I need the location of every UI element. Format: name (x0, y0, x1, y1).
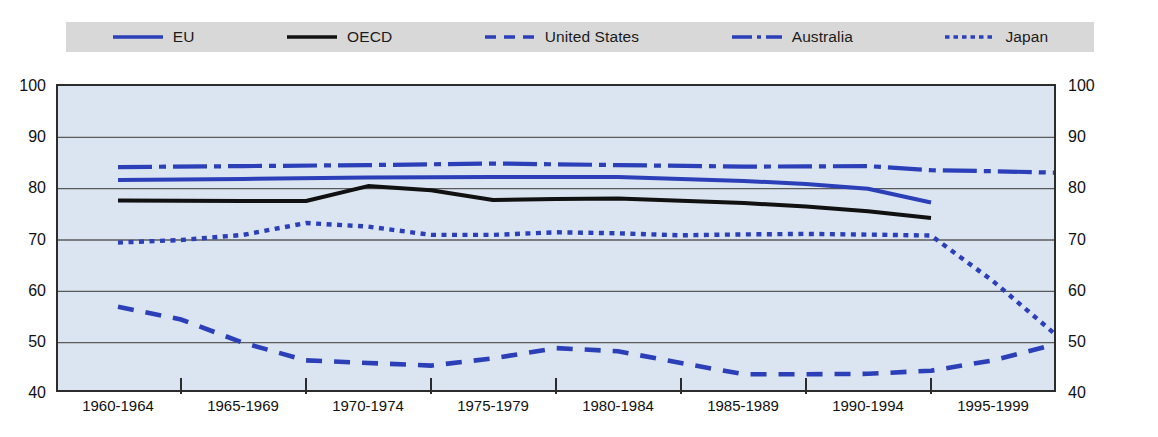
plot-area (56, 84, 1056, 392)
x-axis-label-1980-1984: 1980-1984 (582, 398, 654, 413)
legend-label-united-states: United States (545, 28, 639, 46)
y-axis-label-right-100: 100 (1068, 78, 1114, 94)
y-axis-label-right-90: 90 (1068, 129, 1114, 145)
plot-right-rule (1054, 84, 1056, 392)
y-axis-label-right-60: 60 (1068, 283, 1114, 299)
x-axis-label-1990-1994: 1990-1994 (832, 398, 904, 413)
y-axis-label-left-50: 50 (0, 334, 46, 350)
y-axis-label-left-60: 60 (0, 283, 46, 299)
legend-line-japan (944, 30, 996, 44)
chart-legend: EU OECD United States Australia Japan (66, 22, 1094, 52)
legend-item-australia[interactable]: Australia (731, 22, 853, 52)
y-axis-label-left-70: 70 (0, 232, 46, 248)
x-axis-ticks (181, 378, 931, 394)
x-axis-label-1985-1989: 1985-1989 (707, 398, 779, 413)
legend-label-australia: Australia (792, 28, 853, 46)
legend-line-united-states (484, 30, 536, 44)
y-axis-label-left-40: 40 (0, 385, 46, 401)
legend-label-japan: Japan (1005, 28, 1048, 46)
y-axis-label-left-80: 80 (0, 180, 46, 196)
legend-line-australia (731, 30, 783, 44)
y-axis-label-left-90: 90 (0, 129, 46, 145)
series-line-australia (118, 164, 1056, 173)
plot-svg (56, 86, 1056, 394)
x-axis-label-1995-1999: 1995-1999 (957, 398, 1029, 413)
legend-label-oecd: OECD (347, 28, 392, 46)
legend-line-eu (112, 30, 164, 44)
legend-line-oecd (286, 30, 338, 44)
plot-left-rule (56, 84, 58, 392)
series-line-oecd (118, 186, 931, 218)
series-line-united-states (118, 307, 1056, 375)
y-axis-label-right-40: 40 (1068, 385, 1114, 401)
legend-item-japan[interactable]: Japan (944, 22, 1048, 52)
legend-label-eu: EU (173, 28, 195, 46)
legend-item-united-states[interactable]: United States (484, 22, 639, 52)
y-axis-label-right-80: 80 (1068, 180, 1114, 196)
x-axis-label-1970-1974: 1970-1974 (332, 398, 404, 413)
y-axis-label-right-50: 50 (1068, 334, 1114, 350)
y-axis-label-left-100: 100 (0, 78, 46, 94)
x-axis-label-1960-1964: 1960-1964 (82, 398, 154, 413)
y-axis-label-right-70: 70 (1068, 232, 1114, 248)
x-axis-label-1965-1969: 1965-1969 (207, 398, 279, 413)
x-axis-label-1975-1979: 1975-1979 (457, 398, 529, 413)
chart-container: EU OECD United States Australia Japan (0, 0, 1158, 437)
legend-item-oecd[interactable]: OECD (286, 22, 392, 52)
legend-item-eu[interactable]: EU (112, 22, 195, 52)
